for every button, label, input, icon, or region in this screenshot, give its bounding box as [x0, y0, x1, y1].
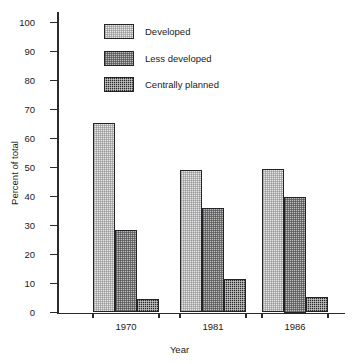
y-tick-label: 40	[24, 192, 35, 202]
y-axis-title: Percent of total	[10, 127, 20, 219]
y-tick-label: 90	[24, 47, 35, 57]
y-tick-label: 70	[24, 105, 35, 115]
x-axis-title: Year	[0, 345, 359, 355]
x-tick-label-1986: 1986	[265, 322, 325, 332]
bar-developed-1970	[93, 123, 115, 313]
bar-less-developed-1970	[115, 230, 137, 313]
legend-label-centrally-planned: Centrally planned	[145, 79, 219, 90]
legend-swatch-developed	[104, 24, 134, 39]
legend-swatch-less-developed	[104, 51, 134, 66]
y-tick-label: 100	[19, 18, 35, 28]
bar-developed-1981	[180, 170, 202, 312]
y-tick	[50, 254, 58, 255]
x-axis-line	[57, 313, 345, 315]
x-tick-label-1981: 1981	[183, 322, 243, 332]
x-tick	[261, 313, 262, 318]
y-tick-label: 60	[24, 134, 35, 144]
legend-label-less-developed: Less developed	[145, 53, 212, 64]
legend-label-developed: Developed	[145, 26, 190, 37]
bar-developed-1986	[262, 169, 284, 313]
y-tick-label: 50	[24, 163, 35, 173]
y-tick-label: 20	[24, 250, 35, 260]
bar-chart: 0102030405060708090100 Percent of total …	[0, 0, 359, 364]
y-tick	[50, 312, 58, 313]
bar-less-developed-1981	[202, 208, 224, 312]
bar-centrally-planned-1986	[306, 297, 328, 313]
y-tick	[50, 225, 58, 226]
x-tick	[92, 313, 93, 318]
x-tick	[327, 313, 328, 318]
y-tick	[50, 138, 58, 139]
x-tick	[245, 313, 246, 318]
y-tick	[50, 109, 58, 110]
y-tick	[50, 22, 58, 23]
y-tick	[50, 196, 58, 197]
y-tick-label: 0	[30, 308, 35, 318]
legend-swatch-centrally-planned	[104, 77, 134, 92]
y-tick-label: 80	[24, 76, 35, 86]
bar-centrally-planned-1981	[224, 279, 246, 313]
x-tick-label-1970: 1970	[96, 322, 156, 332]
y-axis-line	[57, 12, 59, 313]
y-tick	[50, 80, 58, 81]
y-tick-label: 10	[24, 279, 35, 289]
x-tick	[179, 313, 180, 318]
x-tick	[158, 313, 159, 318]
y-tick	[50, 167, 58, 168]
y-tick-label: 30	[24, 221, 35, 231]
bar-centrally-planned-1970	[137, 299, 159, 312]
y-tick	[50, 51, 58, 52]
bar-less-developed-1986	[284, 197, 306, 313]
y-tick	[50, 283, 58, 284]
